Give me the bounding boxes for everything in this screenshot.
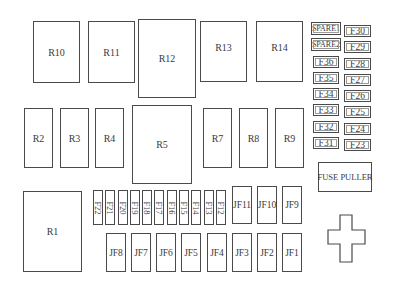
jcase-fuse-jf6: JF6	[156, 233, 176, 272]
relay-r5: R5	[132, 105, 192, 184]
fuse-spare2: SPARE2	[311, 38, 341, 51]
relay-label: R4	[104, 133, 116, 144]
fuse-label: F35	[319, 73, 334, 83]
fuse-f30: F30	[344, 25, 371, 37]
fuse-label: JF6	[159, 248, 173, 258]
relay-r11: R11	[88, 21, 135, 83]
fuse-f26: F26	[344, 90, 371, 102]
fuse-f36: F36	[313, 56, 339, 68]
fuse-f27: F27	[344, 74, 371, 86]
fuse-label: F26	[350, 91, 365, 101]
fuse-label: F20	[118, 201, 128, 214]
fuse-label: JF3	[235, 248, 249, 258]
fuse-label: F24	[350, 124, 365, 134]
fuse-label: F28	[350, 59, 365, 69]
jcase-fuse-jf9: JF9	[282, 186, 302, 224]
relay-label: R5	[156, 139, 168, 150]
fuse-label: F17	[154, 201, 164, 214]
fuse-label: F13	[204, 201, 214, 214]
fuse-puller: FUSE PULLER	[318, 162, 372, 192]
jcase-fuse-jf10: JF10	[257, 186, 277, 224]
fuse-puller-label: FUSE PULLER	[317, 172, 372, 182]
relay-label: R7	[212, 133, 224, 144]
fuse-label: JF7	[134, 248, 148, 258]
relay-label: R10	[48, 47, 65, 58]
fuse-label: F21	[105, 201, 115, 214]
fuse-label: F36	[319, 57, 334, 67]
relay-label: R14	[271, 42, 288, 53]
relay-r10: R10	[33, 21, 80, 83]
fuse-label: SPARE2	[312, 40, 340, 49]
relay-r14: R14	[256, 21, 303, 82]
fuse-label: F27	[350, 75, 365, 85]
relay-label: R9	[284, 133, 296, 144]
relay-r9: R9	[275, 108, 304, 168]
fuse-f29: F29	[344, 41, 371, 53]
fuse-label: JF8	[109, 248, 123, 258]
fuse-f17: F17	[154, 190, 164, 225]
fuse-label: JF10	[258, 200, 276, 210]
fuse-f21: F21	[105, 190, 115, 225]
fuse-label: F25	[350, 107, 365, 117]
fuse-label: F14	[191, 201, 201, 214]
relay-r4: R4	[95, 108, 124, 168]
fuse-f14: F14	[191, 190, 201, 225]
relay-r12: R12	[138, 19, 196, 98]
jcase-fuse-jf2: JF2	[257, 233, 277, 272]
fuse-label: F19	[130, 201, 140, 214]
fuse-f32: F32	[313, 121, 339, 133]
fuse-label: F34	[319, 89, 334, 99]
jcase-fuse-jf3: JF3	[232, 233, 252, 272]
fuse-f35: F35	[313, 72, 339, 84]
jcase-fuse-jf11: JF11	[232, 186, 252, 224]
relay-label: R1	[47, 226, 59, 237]
fuse-f16: F16	[167, 190, 177, 225]
fuse-f13: F13	[204, 190, 214, 225]
fuse-label: F16	[167, 201, 177, 214]
fuse-f23: F23	[344, 139, 371, 151]
fuse-f15: F15	[179, 190, 189, 225]
jcase-fuse-jf4: JF4	[207, 233, 227, 272]
fuse-label: F31	[319, 138, 334, 148]
fuse-label: JF4	[210, 248, 224, 258]
fuse-label: F12	[216, 201, 226, 214]
fuse-f18: F18	[142, 190, 152, 225]
fuse-label: F23	[350, 140, 365, 150]
relay-label: R11	[103, 47, 119, 58]
fuse-label: JF2	[260, 248, 274, 258]
jcase-fuse-jf7: JF7	[131, 233, 151, 272]
relay-r2: R2	[24, 108, 53, 168]
fuse-label: JF9	[285, 200, 299, 210]
fuse-f34: F34	[313, 88, 339, 100]
fuse-label: JF1	[285, 248, 299, 258]
fuse-label: SPARE1	[312, 24, 340, 33]
relay-label: R3	[69, 133, 81, 144]
relay-r3: R3	[60, 108, 89, 168]
fuse-label: JF11	[233, 200, 251, 210]
fuse-f12: F12	[216, 190, 226, 225]
fuse-label: F15	[179, 201, 189, 214]
fuse-f24: F24	[344, 123, 371, 135]
fuse-label: F30	[350, 26, 365, 36]
relay-label: R12	[159, 53, 176, 64]
fuse-label: F29	[350, 42, 365, 52]
jcase-fuse-jf8: JF8	[106, 233, 126, 272]
relay-r7: R7	[203, 108, 232, 168]
relay-r13: R13	[200, 21, 247, 82]
fuse-spare1: SPARE1	[311, 22, 341, 35]
fuse-f28: F28	[344, 58, 371, 70]
fuse-f19: F19	[130, 190, 140, 225]
fuse-label: F22	[93, 201, 103, 214]
cross-slot-icon	[327, 214, 367, 264]
jcase-fuse-jf5: JF5	[181, 233, 201, 272]
fuse-f31: F31	[313, 137, 339, 149]
fuse-label: F32	[319, 122, 334, 132]
relay-r8: R8	[239, 108, 268, 168]
jcase-fuse-jf1: JF1	[282, 233, 302, 272]
fuse-f25: F25	[344, 106, 371, 118]
fuse-label: F18	[142, 201, 152, 214]
fuse-label: F33	[319, 105, 334, 115]
fuse-label: JF5	[184, 248, 198, 258]
fuse-f20: F20	[118, 190, 128, 225]
relay-label: R13	[215, 42, 232, 53]
